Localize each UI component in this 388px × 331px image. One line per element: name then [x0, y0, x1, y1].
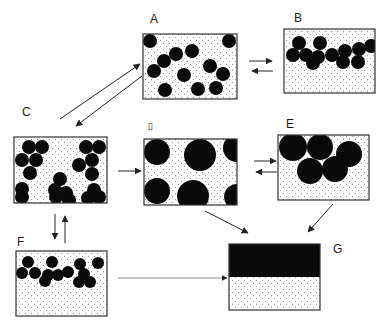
droplet [92, 257, 104, 269]
state-box-d [144, 134, 251, 212]
droplet [297, 158, 323, 184]
state-box-f [16, 251, 107, 316]
separated-oil-layer [229, 244, 320, 277]
arrow-e-to-g [308, 204, 333, 232]
droplet [306, 56, 320, 70]
droplet [16, 267, 28, 279]
droplet [191, 82, 205, 96]
state-label-f: F [17, 235, 24, 249]
droplet [222, 34, 236, 48]
droplet [85, 153, 99, 167]
state-box-g [229, 244, 320, 310]
droplet [313, 36, 327, 50]
droplet [143, 34, 157, 48]
droplet [352, 42, 366, 56]
droplet [35, 140, 49, 154]
droplet [62, 193, 76, 207]
droplet [203, 59, 217, 73]
droplet [177, 180, 209, 212]
droplet [15, 190, 29, 204]
droplet [84, 276, 96, 288]
droplet [169, 47, 183, 61]
droplet [364, 39, 378, 53]
state-label-d: ▯ [148, 121, 153, 131]
droplet [144, 139, 170, 165]
state-label-e: E [286, 117, 294, 131]
droplet [144, 178, 170, 204]
droplet [286, 48, 300, 62]
droplet [185, 44, 199, 58]
state-box-b [284, 29, 378, 93]
droplet [15, 153, 29, 167]
state-boxes [14, 29, 378, 316]
droplet [72, 158, 86, 172]
droplet [177, 68, 191, 82]
state-box-e [278, 133, 369, 200]
state-label-c: C [22, 105, 31, 119]
state-label-g: G [333, 242, 342, 256]
droplet [22, 256, 34, 268]
droplet [73, 276, 85, 288]
droplet [307, 134, 333, 160]
droplet [79, 140, 93, 154]
droplet [147, 64, 161, 78]
droplet [351, 55, 365, 69]
droplet [62, 266, 74, 278]
droplet [29, 267, 41, 279]
droplet [209, 81, 223, 95]
arrow-c-to-a [60, 64, 140, 119]
droplet [158, 83, 172, 97]
state-box-c [14, 137, 107, 207]
droplet [322, 156, 348, 182]
droplet [157, 54, 171, 68]
droplet [46, 256, 58, 268]
droplet [292, 36, 306, 50]
droplet [216, 67, 230, 81]
droplet [22, 140, 36, 154]
droplet [279, 133, 307, 161]
arrow-d-to-g [205, 211, 248, 233]
droplet [336, 55, 350, 69]
droplet [184, 139, 216, 171]
state-label-a: A [150, 12, 158, 26]
droplet [29, 153, 43, 167]
emulsion-stability-diagram: A B C ▯ E F G [0, 0, 388, 331]
droplet [49, 190, 63, 204]
state-box-a [143, 34, 237, 99]
droplet [23, 166, 37, 180]
droplet [92, 140, 106, 154]
droplet [85, 167, 99, 181]
state-label-b: B [294, 11, 302, 25]
droplet [39, 275, 51, 287]
